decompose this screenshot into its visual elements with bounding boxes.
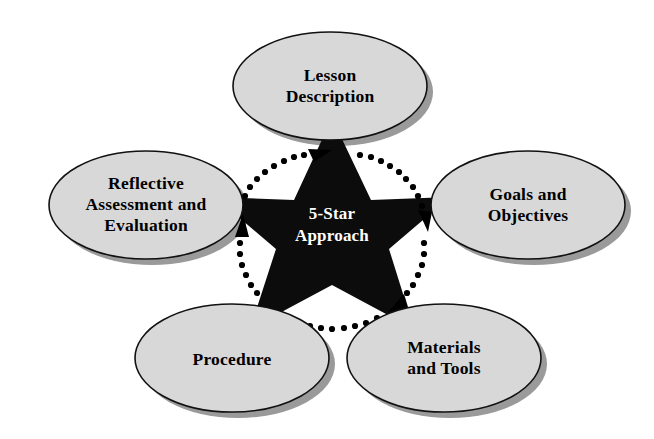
diagram-canvas: Lesson Description Goals and Objectives …	[0, 0, 654, 439]
label-center-line2: Approach	[295, 226, 369, 245]
label-materials-and-tools-line1: Materials	[407, 337, 481, 357]
label-procedure: Procedure	[193, 349, 272, 369]
label-reflective-assessment-line3: Evaluation	[104, 215, 188, 235]
label-materials-and-tools-line2: and Tools	[407, 358, 480, 378]
label-center-line1: 5-Star	[309, 204, 356, 223]
five-pointed-star-icon	[215, 118, 450, 329]
label-goals-and-objectives-line1: Goals and	[489, 184, 566, 204]
label-goals-and-objectives-line2: Objectives	[488, 205, 569, 225]
label-lesson-description-line2: Description	[286, 86, 375, 106]
label-reflective-assessment-line2: Assessment and	[86, 194, 207, 214]
label-lesson-description-line1: Lesson	[304, 65, 357, 85]
label-reflective-assessment-line1: Reflective	[108, 173, 184, 193]
five-star-approach-diagram: Lesson Description Goals and Objectives …	[0, 0, 654, 439]
center-star-group	[215, 118, 450, 329]
